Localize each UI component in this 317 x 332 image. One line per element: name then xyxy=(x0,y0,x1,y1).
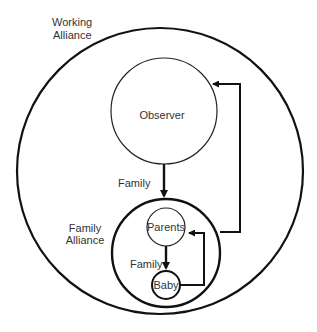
working-alliance-circle xyxy=(17,28,303,314)
working-alliance-label-1: Working xyxy=(52,16,92,28)
alliance-diagram: Working Alliance Observer Family Family … xyxy=(0,0,317,332)
feedback-arrow-inner xyxy=(180,233,204,285)
parents-label: Parents xyxy=(147,221,185,233)
observer-label: Observer xyxy=(139,109,185,121)
family-arrow-inner-label: Family xyxy=(130,258,163,270)
family-arrow-outer-label: Family xyxy=(118,177,151,189)
baby-label: Baby xyxy=(153,279,179,291)
family-alliance-label-1: Family xyxy=(69,222,102,234)
working-alliance-label-2: Alliance xyxy=(53,29,92,41)
family-alliance-label-2: Alliance xyxy=(66,234,105,246)
